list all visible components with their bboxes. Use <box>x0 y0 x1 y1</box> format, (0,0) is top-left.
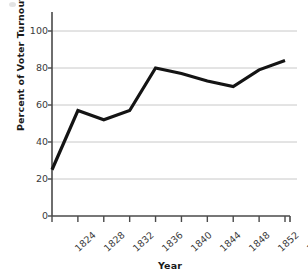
turnout-data-line <box>52 61 285 170</box>
gridlines-group <box>52 31 297 179</box>
x-tick-marks-group <box>52 216 285 222</box>
x-axis-title: Year <box>52 260 288 271</box>
axis-lines-group <box>52 12 290 222</box>
voter-turnout-line-chart: Percent of Voter Turnout Year 100 80 60 … <box>0 0 308 280</box>
